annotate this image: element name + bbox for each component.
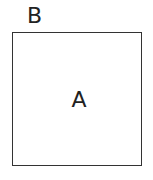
box-a: A bbox=[12, 32, 142, 166]
label-a: A bbox=[71, 88, 86, 112]
label-b: B bbox=[27, 4, 42, 28]
